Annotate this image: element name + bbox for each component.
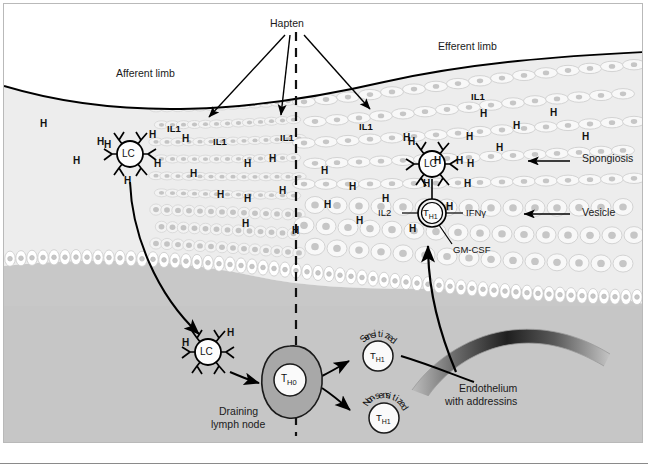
hapten-mark: H	[446, 202, 453, 212]
hapten-mark: H	[324, 200, 331, 210]
lc-dermal-label: LC	[200, 347, 213, 357]
hapten-mark: H	[244, 194, 251, 204]
il1-label-e: IL1	[471, 92, 485, 102]
gmcsf-label: GM-CSF	[453, 245, 490, 255]
il1-label-b: IL1	[213, 137, 227, 147]
lc-epidermal-label: LC	[122, 149, 135, 159]
th1-effector-label: TH1	[423, 208, 438, 220]
hapten-mark: H	[513, 121, 520, 131]
hapten-mark: H	[40, 119, 47, 129]
hapten-mark: H	[464, 179, 471, 189]
th1-nonsensitized-label: TH1	[376, 413, 391, 425]
hapten-mark: H	[279, 186, 286, 196]
lc-efferent-hapten-left: H	[408, 137, 415, 147]
hapten-mark: H	[244, 159, 251, 169]
endothelium-label-line1: Endothelium	[459, 383, 517, 394]
hapten-mark: H	[496, 143, 503, 153]
hapten-mark: H	[480, 109, 487, 119]
hapten-mark: H	[356, 216, 363, 226]
lc-dermal-hapten-left: H	[182, 338, 189, 348]
th1-sensitized-label: TH1	[370, 351, 385, 363]
hapten-label: Hapten	[270, 18, 304, 29]
th1-effector-label-sub: H1	[429, 213, 438, 220]
hapten-mark: H	[409, 224, 416, 234]
lc-epidermal-hapten-right: H	[149, 130, 156, 140]
il1-label-d: IL1	[359, 122, 373, 132]
spongiosis-label: Spongiosis	[582, 153, 633, 164]
ifng-label: IFNγ	[466, 208, 486, 218]
hapten-mark: H	[550, 108, 557, 118]
endothelium-label-line2: with addressins	[445, 396, 517, 407]
figure-canvas: Hapten Afferent limb Efferent limb Spong…	[0, 0, 648, 476]
hapten-mark: H	[434, 156, 441, 166]
il2-label: IL2	[378, 208, 391, 218]
th1-nonsensitized-label-sub: H1	[382, 418, 391, 425]
hapten-mark: H	[190, 169, 197, 179]
afferent-limb-label: Afferent limb	[116, 68, 175, 79]
hapten-mark: H	[582, 132, 589, 142]
hapten-mark: H	[242, 219, 249, 229]
lymph-node-label-line1: Draining	[219, 406, 258, 417]
vesicle-label: Vesicle	[582, 207, 615, 218]
hapten-mark: H	[467, 159, 474, 169]
hapten-mark: H	[73, 156, 80, 166]
hapten-mark: H	[154, 159, 161, 169]
il1-label-c: IL1	[280, 133, 294, 143]
lc-efferent-hapten-right: H	[456, 156, 463, 166]
th0-label: TH0	[281, 374, 297, 387]
efferent-limb-label: Efferent limb	[438, 41, 497, 52]
figure-frame: Hapten Afferent limb Efferent limb Spong…	[3, 3, 643, 443]
th1-sensitized-label-sub: H1	[376, 356, 385, 363]
hapten-mark: H	[466, 132, 473, 142]
lc-epidermal-hapten-left: H	[104, 140, 111, 150]
diagram-svg	[4, 4, 643, 443]
il1-label-a: IL1	[167, 124, 181, 134]
hapten-mark: H	[321, 166, 328, 176]
hapten-mark: H	[217, 190, 224, 200]
hapten-mark: H	[269, 154, 276, 164]
th0-label-sub: H0	[287, 378, 297, 387]
hapten-mark: H	[182, 134, 189, 144]
hapten-mark: H	[292, 226, 299, 236]
lc-dermal-hapten-right: H	[227, 328, 234, 338]
hapten-mark: H	[124, 176, 131, 186]
bottom-rule	[0, 463, 648, 464]
hapten-mark: H	[423, 179, 430, 189]
hapten-mark: H	[349, 182, 356, 192]
lymph-node-label-line2: lymph node	[211, 419, 265, 430]
hapten-mark: H	[382, 194, 389, 204]
